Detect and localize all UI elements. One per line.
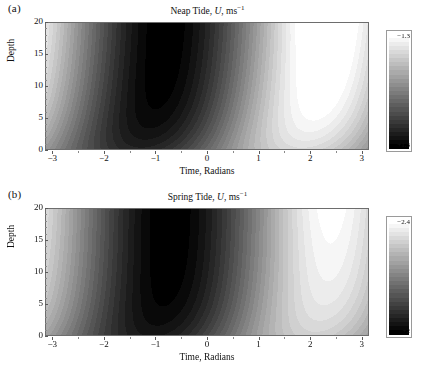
y-tick-minor: [45, 60, 47, 61]
y-tick-minor: [45, 144, 47, 145]
y-tick-minor: [45, 323, 47, 324]
y-tick-mark: [45, 208, 48, 209]
y-tick-minor: [45, 48, 47, 49]
x-tick-minor: [78, 337, 79, 339]
y-tick-minor: [45, 105, 47, 106]
x-tick-label: 1: [249, 153, 269, 163]
x-axis-ticks-b: −3−2−10123: [45, 337, 369, 351]
panel-neap-tide: (a) Neap Tide, U, ms−1 05101520 −3−2−101…: [0, 0, 423, 190]
y-tick-minor: [45, 266, 47, 267]
x-axis-ticks-a: −3−2−10123: [45, 151, 369, 165]
y-axis-label-a: Depth: [6, 39, 16, 62]
y-tick-minor: [45, 80, 47, 81]
y-tick-minor: [45, 28, 47, 29]
y-tick-label: 0: [25, 145, 43, 154]
x-axis-label-a: Time, Radians: [45, 166, 369, 176]
x-tick-label: −1: [145, 153, 165, 163]
x-tick-minor: [336, 337, 337, 339]
x-tick-label: 1: [249, 339, 269, 349]
panel-spring-tide: (b) Spring Tide, U, ms−1 05101520 −3−2−1…: [0, 186, 423, 380]
y-tick-minor: [45, 278, 47, 279]
y-tick-minor: [45, 131, 47, 132]
y-tick-mark: [45, 22, 48, 23]
x-tick-label: 0: [197, 339, 217, 349]
y-tick-minor: [45, 112, 47, 113]
y-tick-minor: [45, 137, 47, 138]
y-tick-label: 15: [25, 49, 43, 58]
x-tick-label: −2: [94, 339, 114, 349]
y-tick-mark: [45, 272, 48, 273]
panel-title-b: Spring Tide, U, ms−1: [45, 190, 370, 202]
panel-title-b-text: Spring Tide, U, ms: [168, 192, 240, 202]
colorbar-min-label-b: +2: [403, 328, 410, 335]
y-tick-minor: [45, 92, 47, 93]
x-tick-label: −3: [42, 339, 62, 349]
colorbar-gradient-a: [389, 33, 409, 149]
y-tick-label: 5: [25, 113, 43, 122]
panel-title-b-exponent: −1: [240, 190, 247, 198]
y-tick-minor: [45, 124, 47, 125]
x-axis-label-b: Time, Radians: [45, 352, 369, 362]
panel-title-a-text: Neap Tide, U, ms: [170, 6, 237, 16]
x-tick-minor: [336, 151, 337, 153]
y-tick-minor: [45, 214, 47, 215]
y-tick-minor: [45, 221, 47, 222]
colorbar-min-label-a: +1.3: [397, 142, 410, 149]
x-tick-label: 3: [352, 339, 372, 349]
y-tick-minor: [45, 285, 47, 286]
colorbar-max-label-b: −2.4: [397, 219, 410, 226]
y-tick-minor: [45, 35, 47, 36]
x-tick-label: 0: [197, 153, 217, 163]
y-axis-ticks-a: 05101520: [22, 22, 43, 150]
x-tick-minor: [233, 151, 234, 153]
heatmap-canvas-a: [46, 23, 368, 149]
y-tick-mark: [45, 150, 48, 151]
x-tick-label: −3: [42, 153, 62, 163]
y-tick-minor: [45, 99, 47, 100]
y-tick-minor: [45, 67, 47, 68]
y-tick-mark: [45, 336, 48, 337]
x-tick-minor: [233, 337, 234, 339]
y-axis-ticks-b: 05101520: [22, 208, 43, 336]
plot-area-b: [45, 208, 369, 336]
x-tick-label: 2: [300, 339, 320, 349]
x-tick-label: 3: [352, 153, 372, 163]
heatmap-canvas-b: [46, 209, 368, 335]
y-tick-label: 20: [25, 17, 43, 26]
y-tick-label: 20: [25, 203, 43, 212]
y-tick-minor: [45, 253, 47, 254]
x-tick-minor: [181, 151, 182, 153]
y-tick-label: 15: [25, 235, 43, 244]
colorbar-b: −2.4 +2: [386, 216, 412, 338]
x-tick-minor: [181, 337, 182, 339]
y-tick-mark: [45, 86, 48, 87]
y-tick-minor: [45, 246, 47, 247]
x-tick-label: 2: [300, 153, 320, 163]
panel-title-a-exponent: −1: [237, 4, 244, 12]
panel-tag-b: (b): [8, 188, 21, 200]
y-tick-label: 10: [25, 267, 43, 276]
x-tick-minor: [284, 151, 285, 153]
y-tick-label: 5: [25, 299, 43, 308]
colorbar-gradient-b: [389, 219, 409, 335]
y-tick-minor: [45, 41, 47, 42]
y-tick-minor: [45, 227, 47, 228]
x-tick-label: −2: [94, 153, 114, 163]
y-tick-minor: [45, 317, 47, 318]
plot-area-a: [45, 22, 369, 150]
colorbar-a: −1.3 +1.3: [386, 30, 412, 152]
x-tick-minor: [78, 151, 79, 153]
y-axis-label-b: Depth: [6, 225, 16, 248]
y-tick-minor: [45, 259, 47, 260]
x-tick-label: −1: [145, 339, 165, 349]
y-tick-minor: [45, 291, 47, 292]
x-tick-minor: [130, 151, 131, 153]
y-tick-label: 0: [25, 331, 43, 340]
tidal-velocity-figure: (a) Neap Tide, U, ms−1 05101520 −3−2−101…: [0, 0, 423, 380]
x-tick-minor: [284, 337, 285, 339]
panel-title-a: Neap Tide, U, ms−1: [45, 4, 370, 16]
y-tick-mark: [45, 54, 48, 55]
y-tick-mark: [45, 304, 48, 305]
panel-tag-a: (a): [8, 2, 21, 14]
x-tick-minor: [130, 337, 131, 339]
